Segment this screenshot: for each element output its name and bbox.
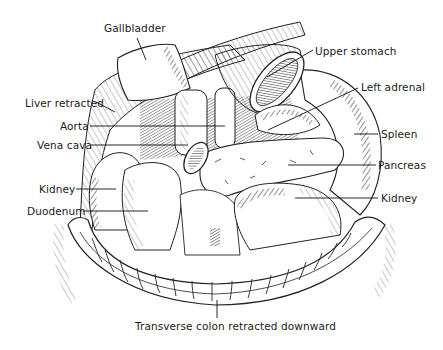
label-pancreas: Pancreas xyxy=(378,159,426,171)
left-adrenal-shape xyxy=(255,105,320,135)
label-left-adrenal: Left adrenal xyxy=(361,81,425,93)
label-liver-retracted: Liver retracted xyxy=(25,97,104,109)
label-vena-cava: Vena cava xyxy=(37,139,92,151)
label-kidney-left: Kidney xyxy=(39,183,75,195)
label-spleen: Spleen xyxy=(381,128,417,140)
label-transverse-colon: Transverse colon retracted downward xyxy=(135,320,336,332)
mesentery-shape xyxy=(180,190,240,255)
duodenum-shape xyxy=(122,163,181,250)
label-upper-stomach: Upper stomach xyxy=(315,45,397,57)
kidney-right-shape xyxy=(234,183,341,250)
label-aorta: Aorta xyxy=(60,120,89,132)
label-gallbladder: Gallbladder xyxy=(104,22,166,34)
label-duodenum: Duodenum xyxy=(27,205,86,217)
label-kidney-right: Kidney xyxy=(381,192,417,204)
anatomy-diagram: Gallbladder Upper stomach Left adrenal L… xyxy=(0,0,443,350)
